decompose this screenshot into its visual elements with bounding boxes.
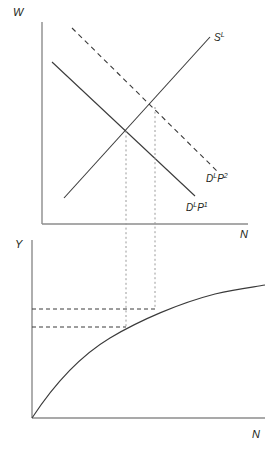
production-y-axis-label: Y <box>15 238 23 250</box>
production-x-axis-label: N <box>252 428 260 440</box>
labor-supply-curve <box>64 37 210 198</box>
labor-market-y-axis-label: W <box>13 6 25 18</box>
production-function-panel: Y N <box>15 238 265 440</box>
svg-text:DLP2: DLP2 <box>206 172 228 184</box>
figure-root: W N SL DLP2 DLP1 <box>0 0 277 455</box>
labor-market-panel: W N SL DLP2 DLP1 <box>13 6 248 240</box>
labor-market-x-axis-label: N <box>240 228 248 240</box>
labor-demand-curve-p1 <box>52 62 195 196</box>
economics-diagram: W N SL DLP2 DLP1 <box>0 0 277 455</box>
labor-demand-p1-curve-label: DLP1 <box>186 201 208 213</box>
production-function-curve <box>32 285 265 418</box>
employment-guide-lines <box>126 107 155 327</box>
labor-demand-p2-curve-label: DLP2 <box>206 172 228 184</box>
labor-supply-curve-label: SL <box>214 31 225 43</box>
demand-p2-label-superscript2: 2 <box>223 172 228 179</box>
demand-p2-label-base: D <box>206 173 213 184</box>
svg-text:DLP1: DLP1 <box>186 201 208 213</box>
svg-text:SL: SL <box>214 31 225 43</box>
labor-demand-curve-p2 <box>72 28 218 172</box>
demand-p1-label-superscript2: 1 <box>204 201 208 208</box>
demand-p1-label-base: D <box>186 202 193 213</box>
supply-label-superscript: L <box>221 31 225 38</box>
